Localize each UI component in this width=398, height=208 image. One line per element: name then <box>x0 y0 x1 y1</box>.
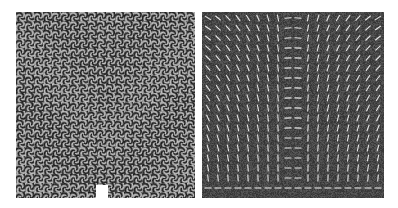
swirl-texture-image <box>16 12 195 198</box>
swirl-texture-canvas <box>16 12 195 198</box>
vector-field-canvas <box>202 12 384 198</box>
vector-field-image <box>202 12 384 198</box>
